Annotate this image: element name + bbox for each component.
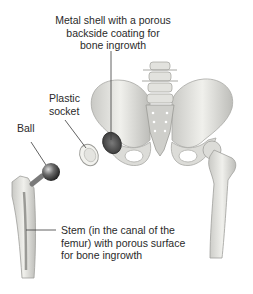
plastic-socket	[76, 141, 102, 169]
label-plastic-socket: Plastic socket	[49, 92, 80, 117]
label-metal-shell: Metal shell with a porous backside coati…	[50, 14, 176, 52]
lumbar-spine	[142, 62, 178, 103]
right-femur	[203, 141, 236, 258]
label-ball: Ball	[17, 122, 35, 135]
hip-replacement-diagram: Metal shell with a porous backside coati…	[0, 0, 253, 294]
label-stem: Stem (in the canal of the femur) with po…	[61, 224, 185, 262]
leader-lines	[26, 51, 111, 230]
femoral-stem	[12, 176, 42, 278]
ball	[42, 163, 60, 181]
